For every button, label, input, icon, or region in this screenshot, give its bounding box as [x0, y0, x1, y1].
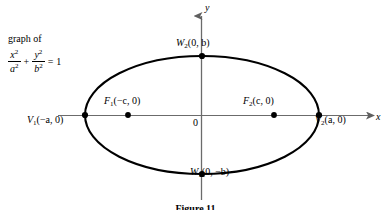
y-axis-label: y: [205, 3, 209, 13]
equation-right-hand-side: 1: [56, 56, 61, 67]
ellipse-figure: graph of x2 a2 + y2 b2 = 1 x y 0 V1(−a, …: [0, 0, 391, 210]
point-focus-right: [271, 112, 277, 118]
equation-plus-operator: +: [24, 56, 30, 67]
fraction-numerator-x: x2: [8, 49, 20, 61]
x-axis-label: x: [376, 112, 380, 122]
graph-description: graph of x2 a2 + y2 b2 = 1: [8, 33, 108, 74]
equation-equals-sign: =: [48, 56, 54, 67]
point-focus-left: [125, 112, 131, 118]
fraction-x-over-a: x2 a2: [8, 49, 21, 74]
label-covertex-bottom: W1(0, −b): [190, 167, 229, 179]
origin-label: 0: [193, 118, 198, 128]
point-covertex-top: [199, 53, 205, 59]
figure-caption: Figure 11: [0, 203, 391, 210]
ellipse-equation: x2 a2 + y2 b2 = 1: [8, 49, 108, 74]
label-vertex-left: V1(−a, 0): [27, 115, 63, 127]
fraction-y-over-b: y2 b2: [32, 49, 45, 74]
label-covertex-top: W2(0, b): [176, 38, 210, 50]
fraction-denominator-b: b2: [32, 61, 45, 74]
graph-of-text: graph of: [8, 33, 108, 44]
label-focus-left: F1(−c, 0): [104, 96, 140, 108]
fraction-denominator-a: a2: [8, 61, 21, 74]
point-vertex-left: [82, 112, 88, 118]
fraction-numerator-y: y2: [32, 49, 44, 61]
label-focus-right: F2(c, 0): [243, 96, 274, 108]
label-vertex-right: V2(a, 0): [315, 115, 346, 127]
